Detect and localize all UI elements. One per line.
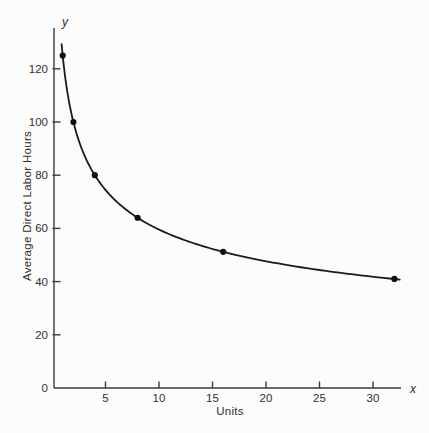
data-point [391,276,397,282]
learning-curve-path [62,44,400,280]
y-tick-label: 20 [35,329,48,341]
data-point [70,119,76,125]
y-tick-label: 40 [35,276,48,288]
y-tick-label: 120 [29,63,48,75]
data-point [220,249,226,255]
y-tick-label: 0 [42,382,48,394]
x-tick-label: 10 [153,392,166,404]
x-tick-label: 5 [102,392,108,404]
x-tick-label: 25 [313,392,326,404]
y-tick-label: 60 [35,222,48,234]
data-point [92,172,98,178]
y-tick-label: 80 [35,169,48,181]
data-point [135,215,141,221]
chart-figure: 51015202530020406080100120 Average Direc… [0,0,429,433]
learning-curve-chart: 51015202530020406080100120 Average Direc… [0,0,429,433]
data-point [60,52,66,58]
x-tick-label: 30 [367,392,380,404]
y-tick-label: 100 [29,116,48,128]
x-axis-letter: x [409,382,417,396]
x-tick-label: 15 [206,392,219,404]
y-axis-letter: y [61,15,69,29]
y-axis-title: Average Direct Labor Hours [21,131,33,281]
x-axis-title: Units [216,405,244,417]
x-tick-label: 20 [260,392,273,404]
